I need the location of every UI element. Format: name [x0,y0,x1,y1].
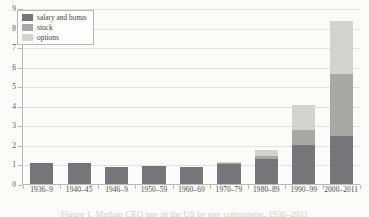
bar-segment-salary-and-bonus [180,167,203,184]
y-axis-tick [18,68,22,69]
x-axis-tick-label: 1950–59 [135,186,172,193]
bar-segment-stock [292,130,315,145]
y-axis-tick-label: 3 [12,123,16,131]
bar-slot [173,9,210,184]
figure-stacked-bar-chart: 0123456789 1936–91940–451946–91950–59196… [0,0,369,217]
y-axis-tick [18,165,22,166]
bar-slot [98,9,135,184]
bar-slot [210,9,247,184]
x-axis-tick-label: 1946–9 [98,186,135,193]
y-axis-tick [18,107,22,108]
legend-label-options: options [37,34,59,41]
stacked-bar [255,150,278,184]
bar-segment-salary-and-bonus [68,163,91,184]
bar-segment-salary-and-bonus [217,164,240,184]
y-axis-tick [18,126,22,127]
bar-segment-salary-and-bonus [330,136,353,184]
bar-segment-salary-and-bonus [30,163,53,184]
x-axis-tick-label: 1960–69 [173,186,210,193]
y-axis-tick [18,185,22,186]
x-axis-tick-label: 1980–89 [248,186,285,193]
legend-item-salary-and-bonus: salary and bonus [22,14,87,21]
bar-segment-salary-and-bonus [142,166,165,184]
legend-swatch-stock [22,24,33,31]
bar-segment-stock [330,74,353,137]
x-axis-tick-label: 1970–79 [210,186,247,193]
y-axis-tick [18,87,22,88]
stacked-bar [180,167,203,184]
y-axis-tick-label: 7 [12,44,16,52]
x-axis-tick [360,185,361,189]
y-axis-tick-label: 5 [12,83,16,91]
chart-legend: salary and bonus stock options [17,10,94,45]
bar-segment-options [330,21,353,74]
y-axis-tick [18,146,22,147]
y-axis-tick-label: 2 [12,142,16,150]
bar-segment-salary-and-bonus [255,159,278,184]
stacked-bar [292,105,315,184]
legend-item-options: options [22,34,87,41]
y-axis-tick-label: 8 [12,25,16,33]
bar-slot [285,9,322,184]
bar-slot [248,9,285,184]
y-axis-tick-label: 0 [12,181,16,189]
stacked-bar [105,167,128,184]
y-axis-tick-label: 4 [12,103,16,111]
legend-item-stock: stock [22,24,87,31]
stacked-bar [142,166,165,184]
y-axis-tick [18,48,22,49]
figure-caption: Figure 1. Median CEO pay in the US by pa… [0,210,369,217]
x-axis-tick-label: 1940–45 [60,186,97,193]
bar-segment-salary-and-bonus [105,167,128,184]
legend-label-salary-and-bonus: salary and bonus [37,14,87,21]
stacked-bar [217,162,240,184]
y-axis-tick-label: 9 [12,5,16,13]
x-axis-tick-label: 1936–9 [23,186,60,193]
bar-segment-salary-and-bonus [292,145,315,184]
stacked-bar [68,163,91,184]
bar-slot [323,9,360,184]
legend-label-stock: stock [37,24,53,31]
x-axis-labels: 1936–91940–451946–91950–591960–691970–79… [23,186,360,193]
x-axis-tick-label: 2000–2011 [323,186,360,193]
y-axis-tick-label: 1 [12,162,16,170]
legend-swatch-options [22,34,33,41]
stacked-bar [330,21,353,184]
legend-swatch-salary-and-bonus [22,14,33,21]
y-axis-tick-label: 6 [12,64,16,72]
bar-segment-options [292,105,315,130]
bar-slot [135,9,172,184]
stacked-bar [30,163,53,184]
x-axis-tick-label: 1990–99 [285,186,322,193]
